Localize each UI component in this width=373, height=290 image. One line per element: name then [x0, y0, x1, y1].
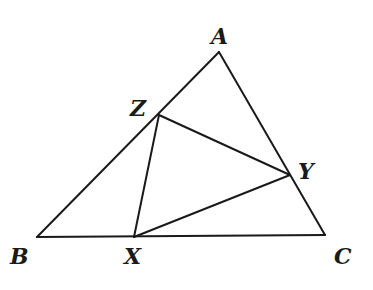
vertex-label-A: A: [209, 23, 228, 49]
edge-BC: [37, 235, 325, 237]
vertex-label-Y: Y: [298, 158, 316, 184]
triangle-diagram: A Z Y B X C: [0, 0, 373, 290]
edge-ZY: [159, 115, 290, 175]
vertex-label-Z: Z: [129, 95, 147, 121]
vertex-label-B: B: [9, 243, 29, 269]
vertex-label-X: X: [122, 243, 142, 269]
vertex-label-C: C: [334, 243, 352, 269]
edge-AB: [37, 52, 219, 237]
edge-CA: [219, 52, 325, 235]
edge-YX: [134, 175, 290, 237]
